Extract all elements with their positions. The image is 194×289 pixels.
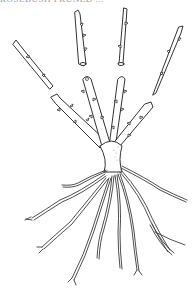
root-system	[25, 166, 187, 285]
cut-stem-right	[153, 26, 183, 95]
cut-stem-center-left	[75, 10, 87, 66]
crown	[100, 141, 122, 172]
cut-stems	[13, 8, 183, 95]
cut-stem-left	[13, 40, 53, 89]
cut-stem-center-right	[118, 8, 128, 66]
remaining-stems	[51, 77, 153, 149]
rose-bush-illustration	[0, 0, 194, 289]
